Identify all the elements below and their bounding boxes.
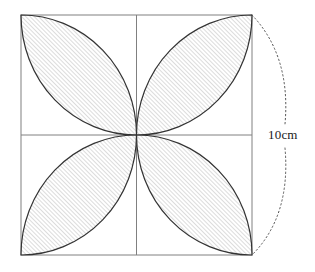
geometry-figure: 10cm [0, 0, 315, 272]
dimension-label-10cm: 10cm [267, 128, 299, 141]
